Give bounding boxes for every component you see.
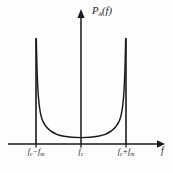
tick-right-subscript-m: m <box>130 151 134 157</box>
y-axis-arrowhead <box>77 9 84 18</box>
tick-left-subscript-c: c <box>30 151 33 157</box>
tick-right-operator: +f <box>123 147 131 156</box>
x-axis-label: f <box>161 147 164 157</box>
tick-label-center: fc <box>69 148 93 156</box>
y-axis-label-tail: (f) <box>102 5 112 16</box>
tick-right-subscript-c: c <box>120 151 123 157</box>
tick-left-operator: −f <box>33 147 41 156</box>
spectral-density-figure: PA(f) f fc−fm fc fc+fm <box>0 0 173 173</box>
tick-label-left: fc−fm <box>18 148 54 156</box>
y-axis-label: PA(f) <box>92 6 112 17</box>
y-axis-label-subscript: A <box>98 11 102 17</box>
tick-left-subscript-m: m <box>40 151 44 157</box>
tick-mid-subscript-c: c <box>81 151 84 157</box>
tick-label-right: fc+fm <box>107 148 145 156</box>
